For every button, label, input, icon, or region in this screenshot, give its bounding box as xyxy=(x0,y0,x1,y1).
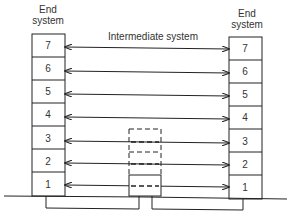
right-layer-3: 3 xyxy=(229,136,261,147)
right-layer-5: 5 xyxy=(229,89,261,100)
left-layer-5: 5 xyxy=(32,86,64,97)
right-layer-4: 4 xyxy=(229,112,261,123)
left-layer-1: 1 xyxy=(32,179,64,190)
intermediate-system-label: Intermediate system xyxy=(98,31,208,42)
right-layer-6: 6 xyxy=(229,66,261,77)
left-layer-4: 4 xyxy=(32,109,64,120)
left-link-line xyxy=(4,196,145,197)
left-layer-3: 3 xyxy=(32,133,64,144)
left-end-system-label: End system xyxy=(22,4,74,26)
left-link xyxy=(46,196,139,209)
right-layer-7: 7 xyxy=(229,43,261,54)
left-layer-6: 6 xyxy=(32,63,64,74)
left-layer-2: 2 xyxy=(32,156,64,167)
right-layer-1: 1 xyxy=(229,182,261,193)
right-end-system-label: End system xyxy=(221,8,273,30)
right-link-line xyxy=(145,197,287,199)
left-layer-7: 7 xyxy=(32,40,64,51)
right-layer-2: 2 xyxy=(229,159,261,170)
